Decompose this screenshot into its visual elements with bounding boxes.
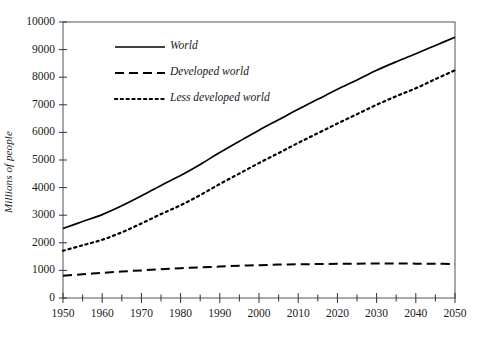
legend-line-samples bbox=[115, 47, 165, 99]
x-tick-label: 2050 bbox=[432, 308, 478, 320]
legend-label-1: Developed world bbox=[170, 66, 249, 78]
plot-border bbox=[63, 22, 455, 298]
y-tick-label: 3000 bbox=[9, 209, 55, 221]
y-tick-label: 9000 bbox=[9, 44, 55, 56]
y-tick-label: 10000 bbox=[9, 16, 55, 28]
y-tick-label: 2000 bbox=[9, 237, 55, 249]
y-tick-label: 1000 bbox=[9, 264, 55, 276]
y-tick-label: 8000 bbox=[9, 71, 55, 83]
legend-label-0: World bbox=[170, 40, 198, 52]
series-line-0 bbox=[63, 37, 455, 228]
y-tick-label: 0 bbox=[9, 292, 55, 304]
series-line-1 bbox=[63, 263, 455, 275]
y-tick-label: 6000 bbox=[9, 126, 55, 138]
y-tick-label: 5000 bbox=[9, 154, 55, 166]
y-tick-label: 7000 bbox=[9, 99, 55, 111]
y-tick-label: 4000 bbox=[9, 182, 55, 194]
legend-label-2: Less developed world bbox=[170, 92, 270, 104]
population-projection-chart: Millions of people 010002000300040005000… bbox=[0, 0, 493, 337]
axis-ticks bbox=[59, 22, 455, 303]
plot-frame bbox=[63, 22, 455, 298]
chart-plot-area bbox=[0, 0, 493, 337]
